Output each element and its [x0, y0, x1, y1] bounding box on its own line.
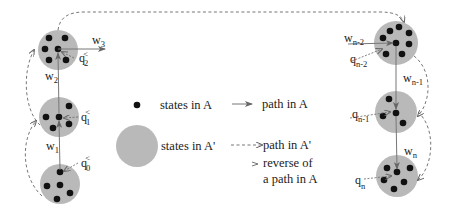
label-wn2: wn-2 — [344, 31, 364, 47]
label-qn2: qn-2 — [350, 52, 367, 69]
legend-reverse-arrow — [252, 162, 258, 166]
label-wn: wn — [404, 144, 418, 160]
dashed-path-q1-to-q2 — [26, 50, 40, 125]
legend-dot-label: states in A — [160, 98, 212, 112]
legend-reverse-label-1: reverse of — [263, 156, 313, 170]
legend-region-circle — [116, 125, 158, 167]
dashed-path-q0-to-q1 — [25, 121, 42, 196]
legend-reverse-label-2: a path in A — [263, 172, 318, 186]
legend: states in A states in A' path in A path … — [116, 97, 318, 186]
label-w2: w2 — [45, 69, 58, 85]
state-dot-qn1 — [393, 110, 400, 117]
legend-dashed-label: path in A' — [263, 138, 311, 152]
label-qn1: qn-1 — [352, 107, 369, 124]
label-w3: w3 — [92, 33, 105, 49]
state-dot-q1 — [56, 114, 63, 121]
state-dot-qn2 — [393, 40, 400, 47]
label-w1: w1 — [46, 139, 59, 155]
dashed-path-q2-to-qn2 — [58, 12, 404, 30]
state-path-diagram: w3 q2< w2 q1< w1 q0< states in A states … — [0, 0, 452, 213]
label-q1: q1< — [81, 107, 90, 127]
legend-state-dot — [134, 102, 141, 109]
dashed-path-qn1-to-qn — [418, 112, 431, 180]
legend-circle-label: states in A' — [161, 139, 215, 153]
state-dot-qn — [394, 169, 401, 176]
legend-solid-label: path in A — [262, 97, 308, 111]
label-q2: q2< — [79, 49, 88, 68]
label-q0: q0< — [81, 153, 90, 173]
label-qn: qn — [355, 173, 366, 191]
label-wn1: wn-1 — [403, 71, 423, 87]
